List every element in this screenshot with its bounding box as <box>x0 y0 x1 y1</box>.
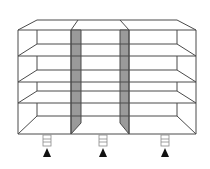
shelving-diagram: Three-column shelving unit with leveling… <box>0 0 210 169</box>
foot-middle <box>99 135 107 157</box>
up-arrow-icon <box>99 148 107 157</box>
up-arrow-icon <box>161 148 169 157</box>
bottom-level <box>18 116 196 134</box>
foot-left <box>43 135 51 157</box>
up-arrow-icon <box>43 148 51 157</box>
shelf-level-3 <box>18 91 196 103</box>
foot-right <box>161 135 169 157</box>
top-surface <box>18 20 196 30</box>
shelf-level-2 <box>18 70 196 82</box>
shelf-level-1 <box>18 44 196 56</box>
shelving-unit-drawing <box>0 0 210 169</box>
